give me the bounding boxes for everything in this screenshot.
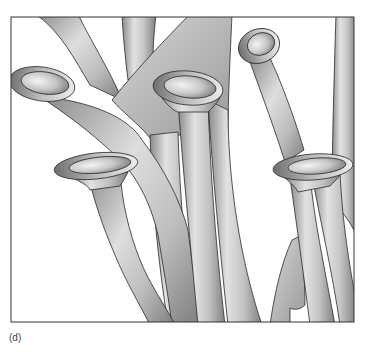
panel-label: (d)	[9, 332, 21, 343]
tube-illustration	[0, 0, 367, 352]
